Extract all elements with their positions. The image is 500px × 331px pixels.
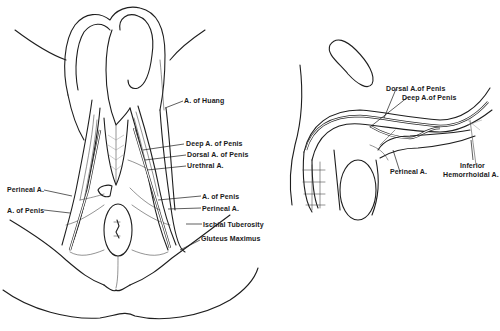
label-a-of-huang: A. of Huang <box>184 97 224 104</box>
label-a-of-penis-right: A. of Penis <box>202 193 239 200</box>
label-perineal-a-left: Perineal A. <box>7 186 44 193</box>
label-a-of-penis-left: A. of Penis <box>7 207 44 214</box>
label-perineal-a-lateral: Perineal A. <box>390 168 427 175</box>
label-gluteus-maximus: Gluteus Maximus <box>201 235 260 242</box>
label-dorsal-a-of-penis-lateral: Dorsal A.of Penis <box>386 85 445 92</box>
right-panel-leader-lines <box>370 89 473 172</box>
left-panel-leader-lines <box>44 101 202 250</box>
right-panel-drawing <box>290 40 492 220</box>
label-deep-a-of-penis: Deep A. of Penis <box>186 140 243 147</box>
label-inferior-hemorrhoidal-a-line1: Inferior <box>460 162 485 169</box>
label-dorsal-a-of-penis: Dorsal A. of Penis <box>187 151 248 158</box>
label-deep-a-of-penis-lateral: Deep A.of Penis <box>402 94 457 101</box>
label-ischial-tuberosity: Ischial Tuberosity <box>203 221 264 228</box>
label-inferior-hemorrhoidal-a-line2: Hemorrhoidal A. <box>443 171 499 178</box>
anatomical-diagram <box>0 0 500 331</box>
label-perineal-a-right: Perineal A. <box>202 205 239 212</box>
label-urethral-a: Urethral A. <box>187 162 224 169</box>
